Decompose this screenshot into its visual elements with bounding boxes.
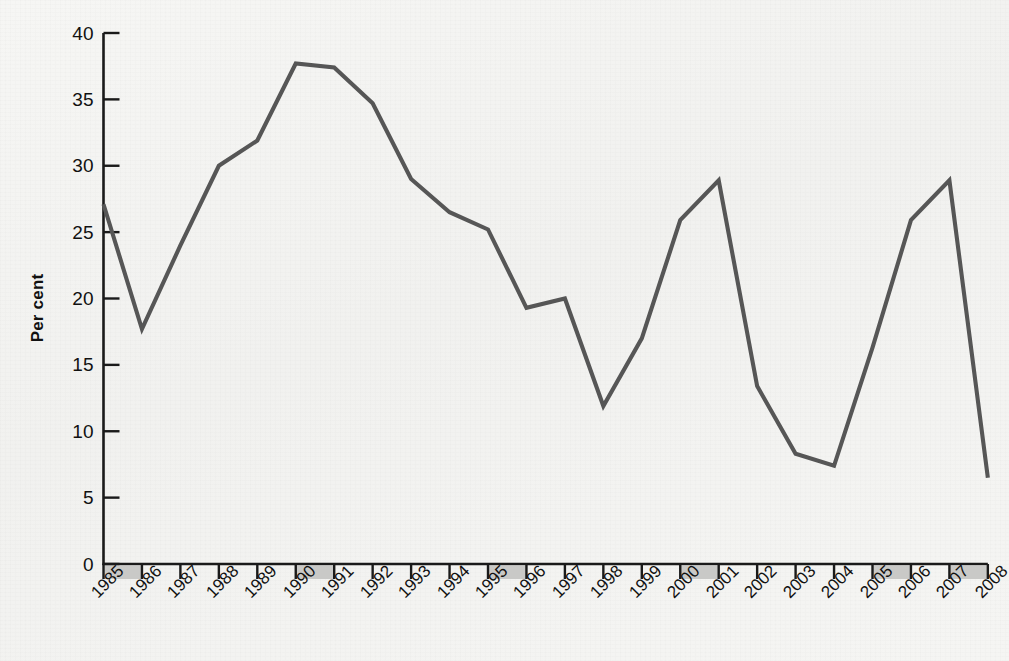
per-cent-series-path xyxy=(104,64,988,478)
y-tick-label-30: 30 xyxy=(48,156,94,175)
y-tick-label-10: 10 xyxy=(48,422,94,441)
line-chart-figure: Per cent 0510152025303540 19851986198719… xyxy=(0,0,1009,661)
y-tick-label-15: 15 xyxy=(48,355,94,374)
y-tick-label-40: 40 xyxy=(48,24,94,43)
y-tick-label-5: 5 xyxy=(48,488,94,507)
y-tick-label-0: 0 xyxy=(48,555,94,574)
y-tick-label-35: 35 xyxy=(48,90,94,109)
y-axis-label: Per cent xyxy=(18,243,58,373)
data-series-line xyxy=(104,64,988,478)
chart-axes xyxy=(103,33,988,579)
y-tick-label-25: 25 xyxy=(48,223,94,242)
y-tick-label-20: 20 xyxy=(48,289,94,308)
y-axis-label-text: Per cent xyxy=(28,274,48,343)
